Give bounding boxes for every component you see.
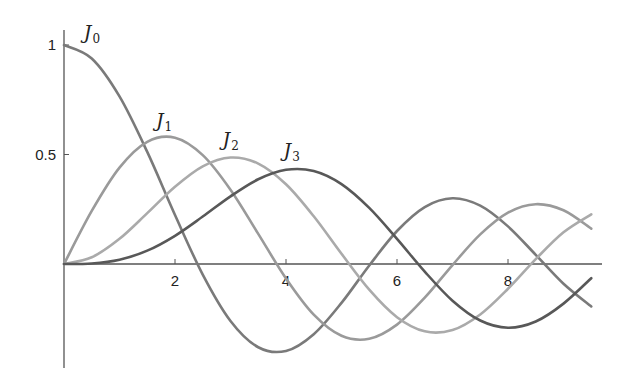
series-labels: J0J1J2J3 — [80, 21, 300, 164]
y-tick-label: 1 — [48, 36, 56, 53]
x-tick-label: 2 — [171, 272, 179, 289]
curves — [64, 45, 591, 352]
axes: 2468 0.51 — [35, 30, 602, 368]
y-tick-label: 0.5 — [35, 146, 56, 163]
curve-j0 — [64, 45, 591, 352]
x-tick-label: 6 — [393, 272, 401, 289]
label-j1: J1 — [152, 109, 172, 134]
curve-j2 — [64, 157, 591, 332]
curve-j1 — [64, 137, 591, 340]
bessel-chart: 2468 0.51 J0J1J2J3 — [0, 0, 631, 390]
label-j3: J3 — [280, 139, 300, 164]
label-j2: J2 — [219, 128, 239, 153]
label-j0: J0 — [80, 21, 100, 46]
curve-j3 — [64, 169, 591, 328]
